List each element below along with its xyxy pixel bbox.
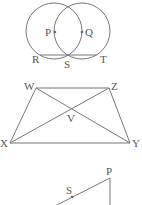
label-s: S (66, 184, 72, 196)
label-p: P (106, 165, 112, 177)
label-y: Y (132, 137, 140, 149)
label-w: W (24, 80, 35, 92)
point-s (71, 196, 74, 199)
label-r: R (32, 53, 40, 65)
label-x: X (0, 137, 8, 149)
diagonal-zx (10, 88, 109, 143)
label-s: S (64, 58, 70, 70)
label-q: Q (85, 26, 93, 38)
side-zy (109, 88, 130, 143)
line-ps (55, 178, 110, 205)
label-v: V (67, 112, 75, 124)
diagonal-wy (36, 88, 130, 143)
label-t: T (100, 53, 107, 65)
label-p: P (45, 26, 51, 38)
figure-two-circles: P Q R S T (26, 3, 110, 70)
figure-partial-triangle: P S (55, 165, 112, 205)
point-q (81, 31, 84, 34)
figure-trapezium: W Z V X Y (0, 80, 140, 149)
point-p (54, 31, 57, 34)
geometry-diagrams: P Q R S T W Z V X Y P S (0, 0, 142, 205)
label-z: Z (111, 80, 118, 92)
side-wx (10, 88, 36, 143)
